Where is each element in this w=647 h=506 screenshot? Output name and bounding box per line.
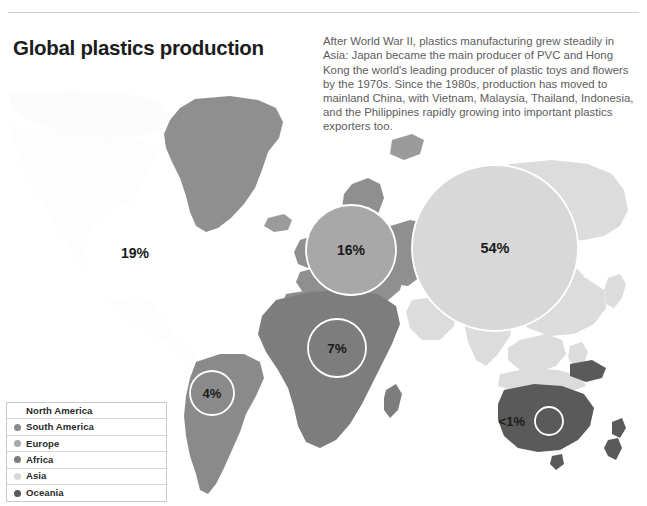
japan-shape	[604, 274, 626, 308]
legend-swatch-icon	[14, 424, 21, 431]
legend-item-asia[interactable]: Asia	[7, 469, 166, 485]
bubble-africa[interactable]: 7%	[308, 319, 366, 377]
legend-label: South America	[26, 422, 94, 432]
bubble-asia[interactable]: 54%	[412, 165, 578, 331]
greenland-shape	[164, 96, 283, 232]
bubble-oceania-label: <1%	[499, 414, 526, 429]
bubble-south-america-label: 4%	[203, 386, 222, 401]
southeast-asia-shape	[508, 334, 566, 372]
legend-item-north-america[interactable]: North America	[7, 403, 166, 419]
page-title: Global plastics production	[13, 36, 264, 60]
legend-label: Asia	[26, 471, 46, 481]
legend-label: Africa	[26, 455, 54, 465]
bubble-oceania-circle	[535, 407, 563, 435]
tasmania-shape	[550, 454, 564, 470]
legend-swatch-icon	[14, 473, 21, 480]
bubble-north-america[interactable]: 19%	[86, 204, 184, 302]
header-divider	[8, 12, 639, 13]
legend-label: Oceania	[26, 488, 64, 498]
bubble-south-america[interactable]: 4%	[190, 371, 234, 415]
legend-item-south-america[interactable]: South America	[7, 419, 166, 435]
bubble-europe[interactable]: 16%	[306, 205, 396, 295]
legend-swatch-icon	[14, 456, 21, 463]
svalbard-shape	[390, 134, 424, 160]
bubble-europe-label: 16%	[337, 242, 366, 258]
bubble-asia-label: 54%	[480, 240, 509, 256]
legend: North America South America Europe Afric…	[6, 402, 167, 502]
legend-swatch-icon	[14, 440, 21, 447]
legend-label: Europe	[26, 439, 59, 449]
bubble-north-america-label: 19%	[121, 245, 150, 261]
legend-swatch-icon	[14, 407, 21, 414]
central-america-shape	[162, 330, 198, 364]
iceland-shape	[264, 214, 292, 232]
new-zealand-shape	[604, 418, 626, 460]
legend-item-europe[interactable]: Europe	[7, 436, 166, 452]
legend-label: North America	[26, 406, 92, 416]
legend-item-africa[interactable]: Africa	[7, 452, 166, 468]
legend-item-oceania[interactable]: Oceania	[7, 485, 166, 501]
bubble-africa-label: 7%	[327, 341, 347, 356]
legend-swatch-icon	[14, 490, 21, 497]
madagascar-shape	[384, 384, 402, 418]
